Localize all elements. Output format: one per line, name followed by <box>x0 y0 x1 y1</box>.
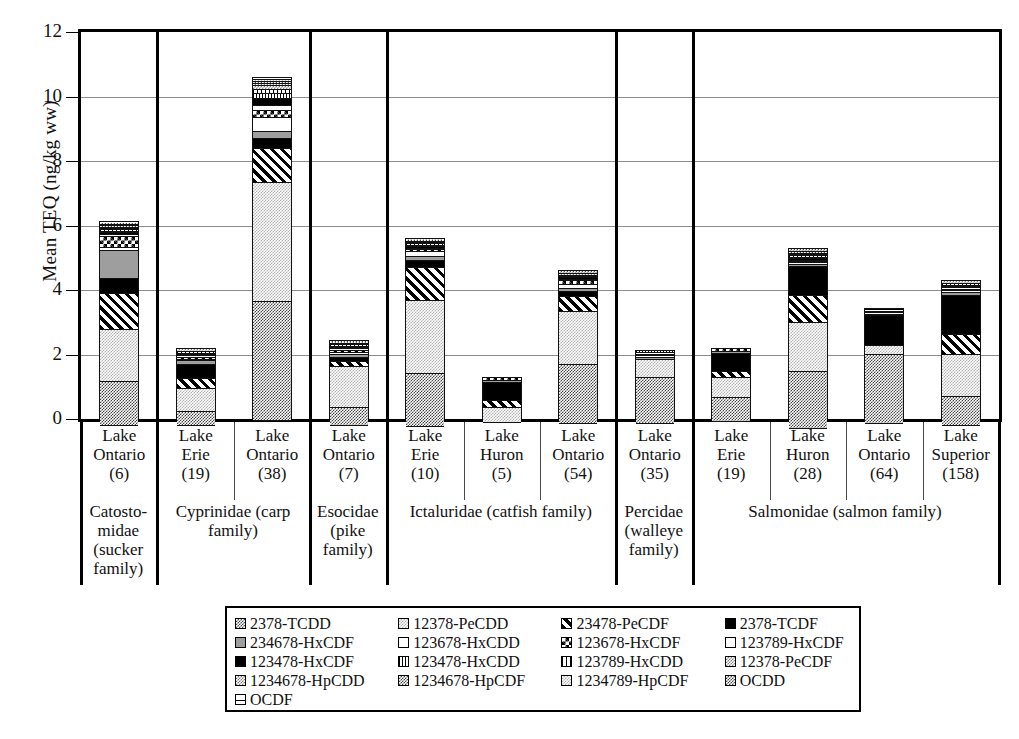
lake-name-line2: Ontario <box>234 445 311 464</box>
chart-legend: 2378-TCDD12378-PeCDD23478-PeCDF2378-TCDF… <box>225 606 861 712</box>
bar-segment <box>865 346 903 355</box>
bar-segment <box>942 296 980 335</box>
legend-item[interactable]: 12378-PeCDD <box>398 614 561 633</box>
x-axis-lake-label: LakeHuron(28) <box>770 422 847 483</box>
lake-sample-count: (6) <box>81 464 158 483</box>
legend-item[interactable]: 123789-HxCDF <box>725 633 851 652</box>
legend-swatch-icon <box>725 637 736 648</box>
legend-item[interactable]: 123478-HxCDF <box>235 652 398 671</box>
stacked-bar-chart: Mean TEQ (ng/kg ww) 121086420 LakeOntari… <box>0 0 1019 739</box>
lake-name-line1: Lake <box>846 426 923 445</box>
legend-item[interactable]: 1234678-HpCDD <box>235 671 398 690</box>
bar-stack[interactable] <box>176 348 216 419</box>
lake-name-line2: Erie <box>158 445 235 464</box>
bar-stack[interactable] <box>864 308 904 419</box>
bar-segment <box>253 132 291 139</box>
bar-stack[interactable] <box>788 248 828 419</box>
legend-label: 2378-TCDF <box>740 614 818 633</box>
family-separator <box>309 32 312 419</box>
legend-swatch-icon <box>398 675 409 686</box>
y-tick-label: 12 <box>22 21 62 40</box>
legend-row: 123478-HxCDF123478-HxCDD123789-HxCDD1237… <box>235 652 851 671</box>
lake-name-line1: Lake <box>464 426 541 445</box>
y-tick-mark <box>66 419 78 420</box>
legend-label: 123789-HxCDF <box>740 633 844 652</box>
x-axis-label-table: LakeOntario(6)LakeErie(19)LakeOntario(38… <box>78 422 1002 587</box>
lake-sample-count: (7) <box>311 464 388 483</box>
legend-label: 12378-PeCDF <box>740 652 832 671</box>
family-separator <box>156 32 159 419</box>
legend-item[interactable]: 2378-TCDD <box>235 614 398 633</box>
bar-stack[interactable] <box>99 221 139 419</box>
bar-segment <box>330 367 368 407</box>
bar-segment <box>942 355 980 398</box>
legend-label: 1234678-HpCDD <box>250 671 365 690</box>
x-axis-lake-label: LakeErie(19) <box>158 422 235 483</box>
y-tick-label: 0 <box>22 408 62 427</box>
legend-item[interactable]: 234678-HxCDF <box>235 633 398 652</box>
y-tick-label: 4 <box>22 279 62 298</box>
legend-item[interactable]: 123678-HxCDD <box>398 633 561 652</box>
legend-item[interactable]: OCDD <box>725 671 851 690</box>
bar-segment <box>712 398 750 422</box>
plot-area <box>78 29 1002 422</box>
bar-stack[interactable] <box>635 350 675 419</box>
bar-segment <box>100 382 138 426</box>
lake-sample-count: (38) <box>234 464 311 483</box>
bar-stack[interactable] <box>558 270 598 419</box>
legend-swatch-icon <box>561 675 572 686</box>
legend-item[interactable]: 1234789-HpCDF <box>561 671 724 690</box>
legend-item[interactable]: 2378-TCDF <box>725 614 851 633</box>
lake-name-line2: Erie <box>387 445 464 464</box>
bar-segment <box>636 378 674 424</box>
lake-sample-count: (158) <box>923 464 1000 483</box>
lake-sample-count: (10) <box>387 464 464 483</box>
legend-item[interactable]: 1234678-HpCDF <box>398 671 561 690</box>
gridline <box>81 226 999 227</box>
bar-segment <box>177 379 215 389</box>
legend-item[interactable]: 123789-HxCDD <box>561 652 724 671</box>
bar-stack[interactable] <box>329 340 369 419</box>
lake-name-line2: Ontario <box>540 445 617 464</box>
legend-label: 1234678-HpCDF <box>413 671 525 690</box>
legend-item[interactable]: 123478-HxCDD <box>398 652 561 671</box>
bar-segment <box>865 355 903 424</box>
bar-segment <box>636 360 674 378</box>
y-tick-mark <box>66 290 78 291</box>
lake-sample-count: (64) <box>846 464 923 483</box>
bar-stack[interactable] <box>941 280 981 419</box>
y-tick-mark <box>66 161 78 162</box>
lake-name-line2: Erie <box>693 445 770 464</box>
bar-segment <box>406 261 444 268</box>
lake-name-line1: Lake <box>234 426 311 445</box>
legend-item[interactable]: 123678-HxCDF <box>561 633 724 652</box>
lake-name-line2: Ontario <box>617 445 694 464</box>
legend-swatch-icon <box>561 618 572 629</box>
family-separator <box>386 32 389 419</box>
bar-segment <box>100 237 138 248</box>
bar-stack[interactable] <box>711 348 751 419</box>
legend-item[interactable]: 12378-PeCDF <box>725 652 851 671</box>
y-axis-title: Mean TEQ (ng/kg ww) <box>39 0 61 391</box>
bar-stack[interactable] <box>252 77 292 419</box>
x-axis-lake-label: LakeOntario(64) <box>846 422 923 483</box>
legend-swatch-icon <box>725 618 736 629</box>
legend-item[interactable]: OCDF <box>235 690 403 709</box>
legend-label: 234678-HxCDF <box>250 633 354 652</box>
legend-item[interactable]: 23478-PeCDF <box>561 614 724 633</box>
lake-name-line1: Lake <box>158 426 235 445</box>
bar-stack[interactable] <box>405 238 445 419</box>
family-separator <box>692 32 695 419</box>
lake-sample-count: (5) <box>464 464 541 483</box>
lake-name-line1: Lake <box>387 426 464 445</box>
bar-stack[interactable] <box>482 377 522 419</box>
lake-name-line1: Lake <box>770 426 847 445</box>
x-axis-family-label: Salmonidae (salmon family) <box>694 502 996 521</box>
bar-segment <box>483 383 521 402</box>
bar-segment <box>253 139 291 149</box>
bar-segment <box>406 374 444 426</box>
legend-label: OCDF <box>250 690 293 709</box>
bar-segment <box>789 372 827 429</box>
legend-swatch-icon <box>235 637 246 648</box>
x-axis-lake-label: LakeOntario(38) <box>234 422 311 483</box>
